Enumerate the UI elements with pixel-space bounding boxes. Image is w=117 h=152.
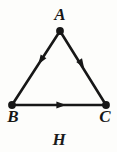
vertex-label-a: A bbox=[48, 6, 72, 23]
vertex-label-b: B bbox=[1, 108, 25, 125]
edge-b-to-c-arrowhead bbox=[56, 101, 66, 108]
edge-a-to-b bbox=[12, 31, 60, 105]
directed-graph-figure: A B C H bbox=[0, 0, 117, 152]
vertex-dot-a bbox=[56, 27, 64, 35]
edge-b-to-c bbox=[12, 101, 106, 108]
edge-a-to-c bbox=[60, 31, 106, 105]
graph-name-label: H bbox=[45, 131, 73, 148]
vertex-label-c: C bbox=[93, 108, 117, 125]
edge-a-to-b-line bbox=[12, 31, 60, 105]
edge-a-to-c-line bbox=[60, 31, 106, 105]
